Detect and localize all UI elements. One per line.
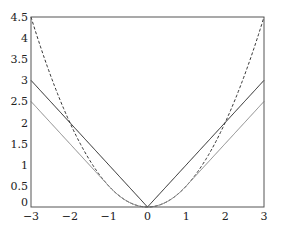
curves [31,17,264,207]
y-tick-label: 4 [21,32,28,45]
chart-root: −3−2−10123 00.511.522.533.544.5 [0,0,281,229]
x-tick-label: 3 [261,210,268,223]
y-tick-label: 0 [21,196,28,209]
y-tick-label: 2.5 [11,95,29,108]
series-line [31,17,264,207]
x-tick-label: 2 [222,210,229,223]
x-tick-label: 0 [144,210,151,223]
y-tick-label: 3.5 [11,53,29,66]
x-tick-label: −1 [101,210,117,223]
y-tick-label: 4.5 [11,11,29,24]
y-tick-label: 1 [21,159,28,172]
y-axis-ticks: 00.511.522.533.544.5 [11,11,29,209]
plot-frame [31,17,264,207]
x-tick-label: −2 [62,210,78,223]
x-axis-ticks: −3−2−10123 [23,210,268,223]
x-tick-label: 1 [183,210,190,223]
y-tick-label: 0.5 [11,180,29,193]
y-tick-label: 3 [21,74,28,87]
series-line [31,101,264,207]
y-tick-label: 2 [21,117,28,130]
x-tick-label: −3 [23,210,39,223]
line-chart: −3−2−10123 00.511.522.533.544.5 [0,0,281,229]
y-tick-label: 1.5 [11,138,29,151]
series-line [31,80,264,207]
